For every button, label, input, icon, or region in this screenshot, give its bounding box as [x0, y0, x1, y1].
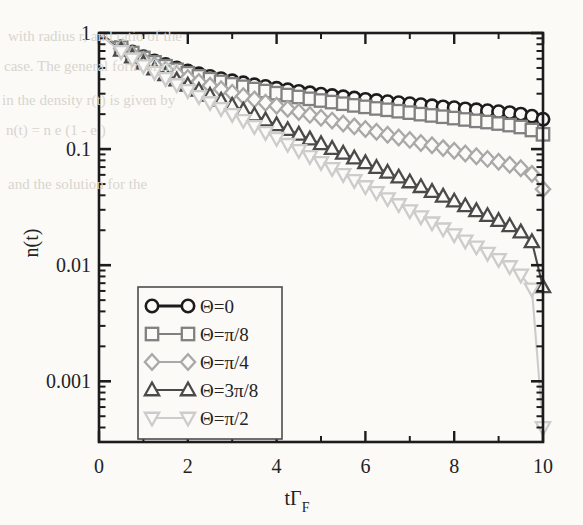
legend-marker	[146, 328, 158, 340]
legend-marker	[146, 300, 158, 312]
legend-label: Θ=3π/8	[200, 380, 258, 401]
legend-label: Θ=π/8	[200, 324, 249, 345]
y-axis-label: n(t)	[20, 229, 43, 258]
x-tick-label: 2	[183, 455, 193, 477]
chart-legend[interactable]: Θ=0Θ=π/8Θ=π/4Θ=3π/8Θ=π/2	[138, 287, 282, 439]
legend-marker	[182, 328, 194, 340]
y-tick-label: 0.01	[56, 254, 91, 276]
figure-container: with radius r, and ratio of the case. Th…	[0, 0, 583, 525]
x-tick-label: 6	[360, 455, 370, 477]
x-tick-label: 8	[449, 455, 459, 477]
scan-bleedthrough-text: case. The general form of the	[4, 58, 179, 75]
scan-bleedthrough-text: n(t) = n e (1 - e )	[6, 122, 106, 139]
scan-bleedthrough-text: in the density r(t) is given by	[2, 92, 175, 109]
y-tick-label: 0.001	[46, 370, 91, 392]
chart-svg: 024681010.10.010.001 tΓF n(t) Θ=0Θ=π/8Θ=…	[0, 0, 583, 525]
legend-marker	[182, 300, 194, 312]
x-tick-label: 0	[94, 455, 104, 477]
legend-label: Θ=π/4	[200, 352, 249, 373]
x-tick-label: 4	[272, 455, 282, 477]
legend-label: Θ=π/2	[200, 408, 249, 429]
x-tick-label: 10	[533, 455, 553, 477]
y-tick-label: 0.1	[66, 138, 91, 160]
scan-bleedthrough-text: and the solution for the	[8, 176, 147, 193]
legend-label: Θ=0	[200, 296, 234, 317]
scan-bleedthrough-text: with radius r, and ratio of the	[8, 28, 182, 45]
